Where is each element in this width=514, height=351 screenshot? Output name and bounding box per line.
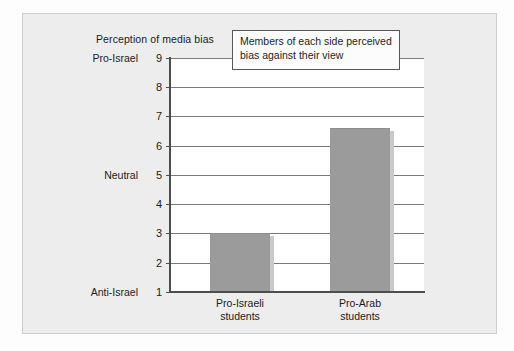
y-tick-label-8: 8	[144, 81, 162, 93]
annotation-callout: Members of each side perceived bias agai…	[232, 30, 400, 70]
x-category-line1-pro-israeli: Pro-Israeli	[180, 297, 300, 310]
y-tick-label-3: 3	[144, 227, 162, 239]
y-tick-mark-9	[166, 58, 170, 59]
y-tick-mark-3	[166, 233, 170, 234]
figure-container: Perception of media bias 9 8 7 6 5 4 3 2…	[0, 0, 514, 351]
y-tick-label-4: 4	[144, 198, 162, 210]
x-category-pro-arab-students: Pro-Arab students	[300, 297, 420, 323]
y-tick-label-1: 1	[144, 286, 162, 298]
y-anchor-label-pro-israel: Pro-Israel	[48, 52, 138, 64]
y-tick-mark-4	[166, 204, 170, 205]
annotation-line2: bias against their view	[240, 49, 393, 63]
y-tick-mark-7	[166, 116, 170, 117]
gridline-7	[170, 116, 424, 117]
y-tick-mark-2	[166, 263, 170, 264]
y-anchor-label-anti-israel: Anti-Israel	[48, 286, 138, 298]
y-tick-label-2: 2	[144, 257, 162, 269]
y-tick-label-5: 5	[144, 169, 162, 181]
y-tick-mark-5	[166, 175, 170, 176]
x-axis-line	[169, 291, 425, 293]
y-tick-label-9: 9	[144, 52, 162, 64]
x-category-line1-pro-arab: Pro-Arab	[300, 297, 420, 310]
y-anchor-label-neutral: Neutral	[48, 169, 138, 181]
x-category-line2-pro-arab: students	[300, 310, 420, 323]
x-category-pro-israeli-students: Pro-Israeli students	[180, 297, 300, 323]
page-title: Perception of media bias	[96, 33, 214, 45]
bar-pro-arab-students[interactable]	[330, 128, 390, 293]
bar-pro-israeli-students[interactable]	[210, 233, 270, 293]
y-tick-mark-1	[166, 292, 170, 293]
y-tick-label-7: 7	[144, 110, 162, 122]
x-category-line2-pro-israeli: students	[180, 310, 300, 323]
y-tick-mark-6	[166, 146, 170, 147]
annotation-line1: Members of each side perceived	[240, 35, 393, 49]
y-tick-mark-8	[166, 87, 170, 88]
y-tick-label-6: 6	[144, 140, 162, 152]
gridline-8	[170, 87, 424, 88]
